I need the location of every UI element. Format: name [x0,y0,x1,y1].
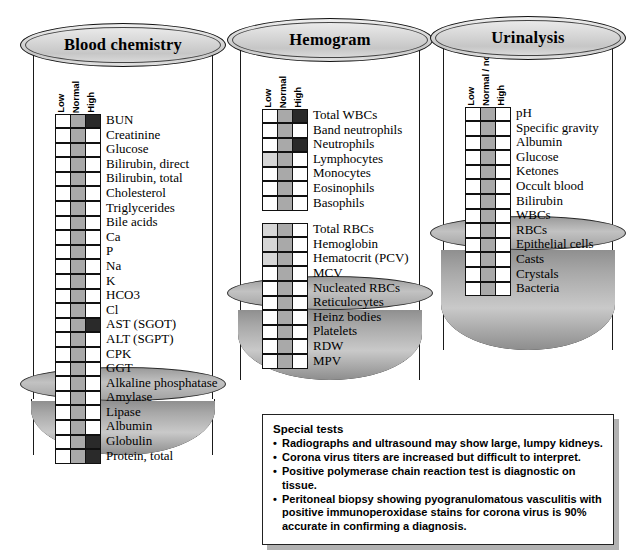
result-row[interactable]: Na [55,259,218,274]
result-row[interactable]: Lipase [55,405,218,420]
result-row[interactable]: Creatinine [55,128,218,143]
result-row[interactable]: Bacteria [465,281,599,296]
result-row[interactable]: Glucose [55,142,218,157]
result-cell-low [262,237,278,252]
result-cell-normal [70,274,86,289]
result-cell-normal [480,267,496,282]
result-row[interactable]: Ca [55,230,218,245]
result-row[interactable]: WBCs [465,208,599,223]
result-row[interactable]: Nucleated RBCs [262,281,409,296]
result-row[interactable]: CPK [55,347,218,362]
result-row[interactable]: Basophils [262,196,409,211]
result-cells [262,325,307,339]
result-row[interactable]: HCO3 [55,288,218,303]
result-row[interactable]: MPV [262,354,409,369]
result-row[interactable]: Eosinophils [262,181,409,196]
result-row[interactable]: P [55,244,218,259]
result-row[interactable]: Heinz bodies [262,310,409,325]
result-row[interactable]: ALT (SGPT) [55,332,218,347]
result-cell-high [495,194,511,209]
result-row[interactable]: Monocytes [262,166,409,181]
result-row[interactable]: Epithelial cells [465,237,599,252]
result-row[interactable]: Crystals [465,267,599,282]
result-cell-normal [70,216,86,231]
result-row[interactable]: Bilirubin, direct [55,157,218,172]
result-row[interactable]: Glucose [465,150,599,165]
result-row-label: Neutrophils [313,137,374,152]
result-row[interactable]: Total RBCs [262,222,409,237]
result-row[interactable]: Lymphocytes [262,152,409,167]
result-cells [55,347,100,361]
result-cell-low [465,194,481,209]
result-cells [55,303,100,317]
result-cell-high [85,318,101,333]
result-cell-high [85,376,101,391]
result-row[interactable]: Cl [55,303,218,318]
result-cell-normal [277,109,293,124]
result-row[interactable]: Hemoglobin [262,237,409,252]
result-row[interactable]: Band neutrophils [262,123,409,138]
cylinder-rim-urinalysis: Urinalysis [430,16,626,60]
result-cell-normal [70,347,86,362]
result-row[interactable]: pH [465,106,599,121]
lab-results-figure: Blood chemistryLowNormalHighBUNCreatinin… [0,0,629,550]
result-cell-normal [480,209,496,224]
result-row-label: Cl [106,303,118,318]
result-row[interactable]: BUN [55,113,218,128]
result-row[interactable]: Albumin [55,419,218,434]
result-cells [262,281,307,295]
result-cell-low [55,230,71,245]
result-cell-low [262,167,278,182]
result-row-label: Bilirubin, direct [106,157,189,172]
result-row[interactable]: Occult blood [465,179,599,194]
result-row-label: Hematocrit (PCV) [313,251,409,266]
result-row[interactable]: RDW [262,339,409,354]
result-row[interactable]: Bilirubin [465,194,599,209]
result-cell-low [465,179,481,194]
result-row[interactable]: AST (SGOT) [55,317,218,332]
result-row[interactable]: Neutrophils [262,137,409,152]
result-cell-high [85,332,101,347]
result-row-label: Triglycerides [106,201,175,216]
result-row[interactable]: RBCs [465,223,599,238]
result-row[interactable]: GGT [55,361,218,376]
result-cell-low [55,303,71,318]
result-cells [55,245,100,259]
result-cell-low [262,310,278,325]
result-row[interactable]: Alkaline phosphatase [55,376,218,391]
result-row[interactable]: Globulin [55,434,218,449]
result-row[interactable]: Specific gravity [465,121,599,136]
result-row[interactable]: Protein, total [55,449,218,464]
result-row-label: Band neutrophils [313,123,402,138]
result-cell-low [465,121,481,136]
result-cell-normal [70,362,86,377]
result-row[interactable]: Casts [465,252,599,267]
result-row[interactable]: Platelets [262,324,409,339]
result-row[interactable]: Triglycerides [55,201,218,216]
result-cell-normal [70,289,86,304]
result-cell-low [262,181,278,196]
result-cells [55,449,100,463]
result-row[interactable]: Albumin [465,135,599,150]
result-cell-normal [70,376,86,391]
result-row-label: RBCs [516,223,547,238]
result-cell-low [55,347,71,362]
result-cell-normal [70,201,86,216]
result-row[interactable]: MCV [262,266,409,281]
result-cell-high [292,223,308,238]
result-row[interactable]: Hematocrit (PCV) [262,251,409,266]
result-cells [55,435,100,449]
result-cells [465,136,510,150]
result-cells [55,318,100,332]
result-row[interactable]: Reticulocytes [262,295,409,310]
result-row[interactable]: Bilirubin, total [55,171,218,186]
result-row[interactable]: Ketones [465,164,599,179]
result-cell-high [292,354,308,369]
result-cell-normal [277,138,293,153]
result-row[interactable]: K [55,274,218,289]
result-row[interactable]: Total WBCs [262,108,409,123]
result-cells [262,123,307,137]
result-row[interactable]: Amylase [55,390,218,405]
result-row[interactable]: Bile acids [55,215,218,230]
result-row[interactable]: Cholesterol [55,186,218,201]
